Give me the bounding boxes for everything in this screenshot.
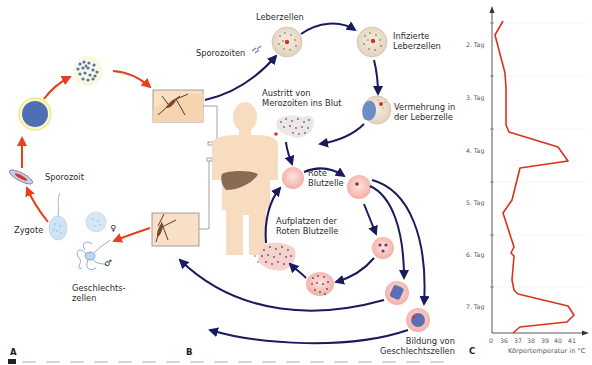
- x-tick-0: 0: [489, 337, 493, 344]
- panel-a-mosquito-cycle: [8, 56, 150, 270]
- label-aufplatzen: Aufplatzen der Roten Blutzelle: [276, 216, 338, 236]
- gametocyte-rbc-2-icon: [406, 308, 430, 332]
- label-rote-blutzelle: Rote Blutzelle: [308, 168, 344, 188]
- sporozoite-cluster-icon: [73, 56, 103, 86]
- label-sporozoit: Sporozoit: [45, 172, 84, 182]
- schizont-rbc-icon: [372, 237, 394, 259]
- temperature-line: [495, 21, 574, 333]
- red-blood-cell-icon: [282, 167, 304, 189]
- label-bildung-geschlechtszellen: Bildung von Geschlechtszellen: [380, 336, 455, 356]
- sporozoite-icon: [8, 167, 35, 186]
- label-leberzellen: Leberzellen: [256, 12, 304, 22]
- y-tick-day-5: 5. Tag: [466, 199, 484, 206]
- x-tick-37: 37: [514, 337, 522, 344]
- zygote-icon: [49, 193, 67, 240]
- female-gamete-icon: [86, 212, 106, 232]
- panel-letter-a: A: [10, 347, 17, 357]
- y-tick-day-4: 4. Tag: [466, 147, 484, 154]
- x-tick-40: 40: [554, 337, 562, 344]
- mosquito-bite-box-bottom: [152, 213, 199, 246]
- label-vermehrung: Vermehrung in der Leberzelle: [394, 102, 455, 122]
- female-symbol: ♀: [110, 223, 116, 233]
- temperature-chart: [490, 6, 590, 336]
- mosquito-bite-box-top: [153, 90, 203, 122]
- liver-cell-icon: [272, 27, 302, 57]
- x-tick-41: 41: [568, 337, 576, 344]
- x-tick-39: 39: [541, 337, 549, 344]
- merozoite-release-icon: [274, 115, 314, 138]
- x-tick-38: 38: [527, 337, 535, 344]
- y-tick-day-7: 7. Tag: [466, 303, 484, 310]
- panel-letter-b: B: [186, 347, 192, 357]
- male-symbol: ♂: [104, 258, 111, 268]
- mature-schizont-rbc-icon: [306, 272, 334, 296]
- label-geschlechtszellen: Geschlechts- zellen: [72, 283, 125, 303]
- y-tick-day-2: 2. Tag: [466, 41, 484, 48]
- mosquito-cycle-arrows: [22, 71, 150, 241]
- cropped-caption-strip: [0, 358, 592, 365]
- infected-red-blood-cell-icon: [347, 175, 371, 199]
- multiplying-liver-cell-icon: [362, 96, 391, 124]
- y-tick-day-6: 6. Tag: [466, 251, 484, 258]
- label-zygote: Zygote: [14, 225, 43, 235]
- sporozoiten-icon: [252, 46, 261, 53]
- label-infizierte-leberzellen: Infizierte Leberzellen: [393, 31, 441, 51]
- x-tick-36: 36: [500, 337, 508, 344]
- label-sporozoiten: Sporozoiten: [196, 48, 245, 58]
- oocyst-icon: [19, 98, 51, 130]
- x-axis-title: Körpertemperatur in °C: [508, 347, 585, 355]
- gametocyte-rbc-1-icon: [385, 281, 409, 305]
- infected-liver-cell-icon: [357, 27, 387, 57]
- label-austritt-merozoiten: Austritt von Merozoiten ins Blut: [262, 88, 342, 108]
- y-tick-day-3: 3. Tag: [466, 94, 484, 101]
- malaria-lifecycle-illustration: [0, 0, 592, 365]
- panel-letter-c: C: [469, 346, 475, 356]
